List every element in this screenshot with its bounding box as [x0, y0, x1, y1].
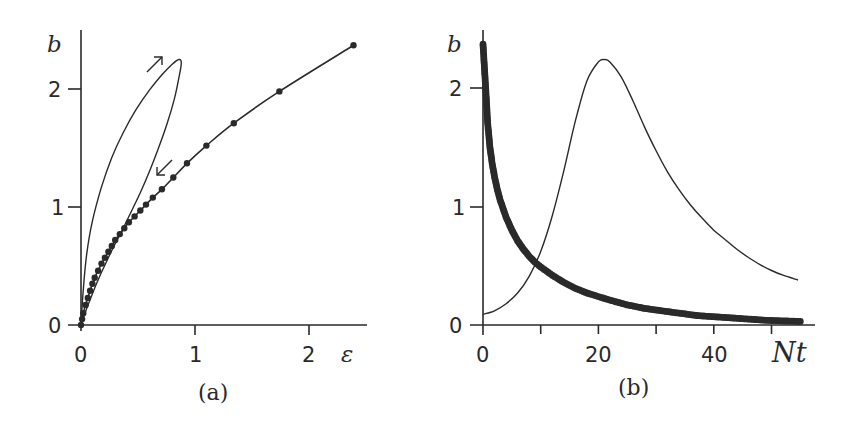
- panel-a-series-1-line: [81, 45, 354, 325]
- data-point-marker: [117, 231, 123, 237]
- panel-b-x-axis-label: Nt: [771, 337, 807, 368]
- panel-a-x-tick-0: 0: [74, 343, 87, 367]
- data-point-marker: [131, 213, 137, 219]
- data-point-marker: [143, 201, 149, 207]
- panel-a-y-tick-2: 2: [48, 78, 61, 102]
- data-point-marker: [109, 243, 115, 249]
- data-point-marker: [203, 142, 209, 148]
- panel-a-x-tick-1: 1: [189, 343, 202, 367]
- panel-b-y-tick-2: 2: [449, 77, 462, 101]
- panel-b-x-tick-0: 0: [476, 343, 489, 367]
- data-point-marker: [184, 160, 190, 166]
- data-point-marker: [121, 225, 127, 231]
- panel-b-series-1-line: [483, 44, 800, 321]
- panel-b-x-tick-20: 20: [585, 343, 612, 367]
- data-point-marker: [159, 186, 165, 192]
- panel-b-y-ticks: [470, 88, 483, 207]
- data-point-marker: [82, 302, 88, 308]
- panel-b-caption: (b): [618, 375, 649, 400]
- data-point-marker: [78, 322, 84, 328]
- data-point-marker: [137, 207, 143, 213]
- data-point-marker: [231, 120, 237, 126]
- panel-a-x-axis-label: ε: [341, 341, 353, 367]
- panel-a-curves: [78, 42, 357, 328]
- data-point-marker: [105, 249, 111, 255]
- data-point-marker: [98, 260, 104, 266]
- data-point-marker: [126, 219, 132, 225]
- data-point-marker: [112, 237, 118, 243]
- panel-a-caption: (a): [198, 380, 228, 405]
- figure: 2 1 0 0 1 2 b ε (a): [0, 0, 857, 435]
- data-point-marker: [170, 174, 176, 180]
- data-point-marker: [150, 194, 156, 200]
- panel-b-x-tick-40: 40: [701, 343, 728, 367]
- data-point-marker: [350, 42, 356, 48]
- panel-a-x-ticks: [195, 325, 309, 335]
- data-point-marker: [95, 268, 101, 274]
- panel-a-y-axis-label: b: [47, 31, 62, 57]
- data-point-marker: [276, 88, 282, 94]
- panel-b-series-0-line: [483, 59, 798, 314]
- figure-canvas: 2 1 0 0 1 2 b ε (a): [0, 0, 857, 435]
- arrow-down-left-icon: [157, 160, 172, 175]
- panel-b-y-axis-label: b: [447, 31, 462, 57]
- panel-a-y-tick-1: 1: [51, 196, 64, 220]
- data-point-marker: [79, 316, 85, 322]
- data-point-marker: [102, 255, 108, 261]
- data-point-marker: [92, 275, 98, 281]
- panel-b-y-tick-0: 0: [449, 314, 462, 338]
- arrow-up-right-icon: [147, 57, 162, 72]
- panel-b-x-ticks: [541, 325, 772, 334]
- data-point-marker: [89, 281, 95, 287]
- panel-b: 2 1 0 0 20 40 b Nt (b): [447, 30, 815, 400]
- data-point-marker: [87, 288, 93, 294]
- panel-a-series-0-line: [81, 59, 181, 325]
- panel-a: 2 1 0 0 1 2 b ε (a): [47, 30, 367, 405]
- data-point-marker: [85, 295, 91, 301]
- panel-a-y-ticks: [68, 89, 81, 207]
- data-point-marker: [797, 318, 804, 325]
- data-point-marker: [80, 310, 86, 316]
- panel-a-y-tick-0: 0: [48, 314, 61, 338]
- panel-b-y-tick-1: 1: [452, 196, 465, 220]
- panel-a-x-tick-2: 2: [302, 343, 315, 367]
- panel-b-curves: [480, 41, 804, 325]
